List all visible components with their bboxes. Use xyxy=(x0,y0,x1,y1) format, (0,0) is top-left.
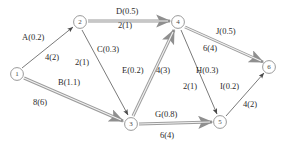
network-diagram-canvas: 1 2 3 4 5 6 A(0.2) 4(2) B(1.1) 8(6) C(0.… xyxy=(0,0,285,145)
node-5[interactable]: 5 xyxy=(214,116,227,129)
edge-label-G-activity: G(0.8) xyxy=(155,110,177,119)
edge-label-H-activity: H(0.3) xyxy=(196,66,218,75)
edge-label-I-weight: 4(2) xyxy=(243,100,257,109)
edge-label-C-activity: C(0.3) xyxy=(97,45,119,54)
node-3[interactable]: 3 xyxy=(125,118,138,131)
edge-label-C-weight: 2(1) xyxy=(75,58,89,67)
node-2[interactable]: 2 xyxy=(74,16,87,29)
edge-label-A-weight: 4(2) xyxy=(45,53,59,62)
node-5-label: 5 xyxy=(218,118,222,126)
edge-label-B-weight: 8(6) xyxy=(33,98,47,107)
edge-label-J-weight: 6(4) xyxy=(203,44,217,53)
edge-label-D-weight: 2(1) xyxy=(118,21,132,30)
node-1[interactable]: 1 xyxy=(11,68,24,81)
edge-label-H-weight: 2(1) xyxy=(183,82,197,91)
node-6[interactable]: 6 xyxy=(263,61,276,74)
edge-label-I-activity: I(0.2) xyxy=(220,82,239,91)
edge-label-E-activity: E(0.2) xyxy=(122,66,143,75)
edge-label-E-weight: 4(3) xyxy=(156,66,170,75)
edge-label-J-activity: J(0.5) xyxy=(216,27,236,36)
edge-I-5-to-6[interactable] xyxy=(226,73,264,116)
node-6-label: 6 xyxy=(267,63,271,71)
node-4-label: 4 xyxy=(176,18,180,26)
edge-label-D-activity: D(0.5) xyxy=(116,7,138,16)
edge-label-G-weight: 6(4) xyxy=(160,131,174,140)
node-2-label: 2 xyxy=(78,18,82,26)
edge-G-3-to-5[interactable] xyxy=(139,122,212,124)
edge-label-B-activity: B(1.1) xyxy=(58,78,80,87)
node-1-label: 1 xyxy=(15,70,19,78)
node-4[interactable]: 4 xyxy=(172,16,185,29)
node-3-label: 3 xyxy=(129,120,133,128)
edge-label-A-activity: A(0.2) xyxy=(22,33,44,42)
